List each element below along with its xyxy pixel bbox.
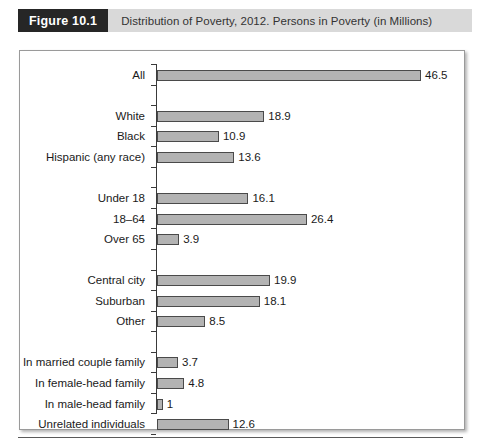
bar[interactable] (157, 316, 205, 327)
bar[interactable] (157, 214, 307, 225)
figure-number-label: Figure 10.1 (18, 9, 108, 32)
y-axis-tick (151, 311, 156, 312)
y-axis-tick (151, 146, 156, 147)
bar-value-label: 46.5 (425, 68, 447, 82)
bar-row[interactable]: In male-head family1 (20, 399, 464, 410)
bar-row[interactable]: Unrelated individuals12.6 (20, 419, 464, 430)
bar-value-label: 26.4 (311, 212, 333, 226)
bar-value-label: 18.9 (268, 109, 290, 123)
bar[interactable] (157, 111, 264, 122)
y-axis-tick (151, 126, 156, 127)
bar-chart-plot-area: All46.5White18.9Black10.9Hispanic (any r… (20, 51, 464, 429)
bar[interactable] (157, 234, 179, 245)
bar-row[interactable]: Over 653.9 (20, 234, 464, 245)
bar-value-label: 16.1 (252, 191, 274, 205)
bar-row[interactable]: Other8.5 (20, 316, 464, 327)
bar-value-label: 3.9 (183, 232, 199, 246)
bar-category-label: In male-head family (0, 397, 145, 411)
footer-rule (18, 437, 463, 438)
bar-value-label: 13.6 (238, 150, 260, 164)
bar-value-label: 4.8 (188, 376, 204, 390)
bar[interactable] (157, 131, 219, 142)
y-axis-tick (151, 434, 156, 435)
bar-row[interactable]: In married couple family3.7 (20, 357, 464, 368)
bar-value-label: 10.9 (223, 129, 245, 143)
bar[interactable] (157, 419, 229, 430)
bar-row[interactable]: Black10.9 (20, 131, 464, 142)
bar[interactable] (157, 275, 270, 286)
bar[interactable] (157, 378, 184, 389)
y-axis-tick (151, 270, 156, 271)
y-axis-tick (151, 228, 156, 229)
bar-category-label: Over 65 (0, 232, 145, 246)
bar[interactable] (157, 296, 260, 307)
bar-category-label: In female-head family (0, 376, 145, 390)
bar[interactable] (157, 152, 234, 163)
bar-category-label: Hispanic (any race) (0, 150, 145, 164)
bar-value-label: 19.9 (274, 273, 296, 287)
bar-row[interactable]: In female-head family4.8 (20, 378, 464, 389)
bar-category-label: Central city (0, 273, 145, 287)
bar-row[interactable]: 18–6426.4 (20, 214, 464, 225)
bar-row[interactable]: Central city19.9 (20, 275, 464, 286)
y-axis-tick (151, 331, 156, 332)
bar[interactable] (157, 399, 163, 410)
bar-category-label: 18–64 (0, 212, 145, 226)
bar-row[interactable]: Under 1816.1 (20, 193, 464, 204)
bar[interactable] (157, 70, 421, 81)
bar-category-label: White (0, 109, 145, 123)
bar-row[interactable]: All46.5 (20, 70, 464, 81)
bar[interactable] (157, 357, 178, 368)
bar-value-label: 3.7 (182, 355, 198, 369)
bar-row[interactable]: Suburban18.1 (20, 296, 464, 307)
bar-category-label: Suburban (0, 294, 145, 308)
bar-row[interactable]: White18.9 (20, 111, 464, 122)
bar[interactable] (157, 193, 248, 204)
y-axis-tick (151, 249, 156, 250)
y-axis-tick (151, 64, 156, 65)
bar-value-label: 8.5 (209, 314, 225, 328)
bar-category-label: Black (0, 129, 145, 143)
bar-value-label: 12.6 (233, 417, 255, 431)
bar-category-label: Under 18 (0, 191, 145, 205)
y-axis-tick (151, 352, 156, 353)
bar-value-label: 18.1 (264, 294, 286, 308)
figure-title: Distribution of Poverty, 2012. Persons i… (108, 9, 432, 32)
y-axis-tick (151, 187, 156, 188)
y-axis-tick (151, 393, 156, 394)
y-axis-tick (151, 290, 156, 291)
bar-value-label: 1 (167, 397, 173, 411)
bar-category-label: All (0, 68, 145, 82)
y-axis-tick (151, 85, 156, 86)
bar-category-label: In married couple family (0, 355, 145, 369)
y-axis-tick (151, 372, 156, 373)
bar-row[interactable]: Hispanic (any race)13.6 (20, 152, 464, 163)
y-axis-tick (151, 208, 156, 209)
chart-frame: All46.5White18.9Black10.9Hispanic (any r… (19, 50, 465, 430)
y-axis-tick (151, 167, 156, 168)
bar-category-label: Other (0, 314, 145, 328)
figure-header: Figure 10.1 Distribution of Poverty, 201… (18, 9, 472, 32)
y-axis-tick (151, 105, 156, 106)
y-axis-tick (151, 413, 156, 414)
bar-category-label: Unrelated individuals (0, 417, 145, 431)
